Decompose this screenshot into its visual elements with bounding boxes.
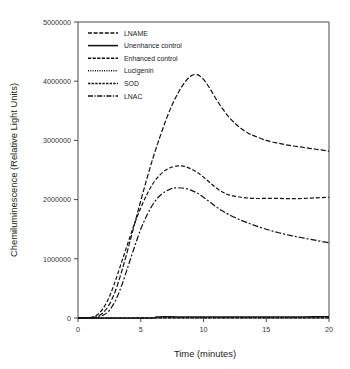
y-tick-label: 0 <box>67 314 71 323</box>
x-axis-title: Time (minutes) <box>174 348 236 359</box>
legend-label-unenhance-control: Unenhance control <box>124 42 182 49</box>
x-tick-label: 5 <box>139 325 143 334</box>
chemiluminescence-line-chart: 010000002000000300000040000005000000 051… <box>0 0 350 369</box>
y-axis-ticks: 010000002000000300000040000005000000 <box>43 18 78 323</box>
legend-label-lucigenin: Lucigenin <box>124 67 154 75</box>
y-axis-title: Chemiluminescence (Relative Light Units) <box>8 83 19 257</box>
x-tick-label: 20 <box>325 325 333 334</box>
legend-label-lname: LNAME <box>124 30 148 37</box>
x-tick-label: 15 <box>262 325 270 334</box>
chart-figure: 010000002000000300000040000005000000 051… <box>0 0 350 369</box>
y-tick-label: 3000000 <box>43 136 71 145</box>
x-tick-label: 10 <box>200 325 208 334</box>
legend-label-lnac: LNAC <box>124 93 142 100</box>
plot-frame <box>78 22 329 318</box>
curve-enhanced-control <box>78 166 329 318</box>
y-tick-label: 5000000 <box>43 18 71 27</box>
y-tick-label: 4000000 <box>43 77 71 86</box>
legend-label-sod: SOD <box>124 80 139 87</box>
legend-label-enhanced-control: Enhanced control <box>124 55 178 62</box>
curve-lname <box>78 74 329 318</box>
x-tick-label: 0 <box>76 325 80 334</box>
x-axis-ticks: 05101520 <box>76 318 333 334</box>
y-tick-label: 1000000 <box>43 255 71 264</box>
y-tick-label: 2000000 <box>43 195 71 204</box>
data-curves <box>78 74 329 318</box>
curve-lnac <box>78 188 329 318</box>
chart-legend: LNAMEUnenhance controlEnhanced controlLu… <box>88 30 182 100</box>
